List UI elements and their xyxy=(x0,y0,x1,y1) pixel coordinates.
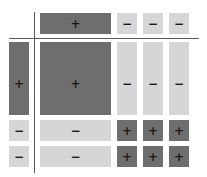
plus-sign: + xyxy=(70,18,80,30)
minus-sign: − xyxy=(14,125,24,137)
minus-sign: − xyxy=(174,78,184,90)
minus-sign: − xyxy=(174,18,184,30)
minus-sign: − xyxy=(122,18,132,30)
matrix-cell-r1-c4: − xyxy=(169,42,189,115)
minus-sign: − xyxy=(70,125,80,137)
vertical-divider xyxy=(34,12,35,173)
minus-sign: − xyxy=(148,18,158,30)
plus-sign: + xyxy=(174,151,184,163)
plus-sign: + xyxy=(70,78,80,90)
plus-sign: + xyxy=(174,125,184,137)
left-header-block-1: + xyxy=(9,42,29,115)
matrix-cell-r1-c2: − xyxy=(117,42,137,115)
plus-sign: + xyxy=(122,151,132,163)
matrix-cell-r3-c3: + xyxy=(143,146,163,167)
plus-sign: + xyxy=(148,125,158,137)
top-header-block-4: − xyxy=(169,13,189,34)
matrix-cell-r1-c1: + xyxy=(40,42,111,115)
matrix-cell-r3-c2: + xyxy=(117,146,137,167)
matrix-cell-r3-c1: − xyxy=(40,146,111,167)
matrix-cell-r1-c3: − xyxy=(143,42,163,115)
left-header-block-3: − xyxy=(9,146,29,167)
left-header-block-2: − xyxy=(9,120,29,141)
plus-sign: + xyxy=(148,151,158,163)
minus-sign: − xyxy=(148,78,158,90)
top-header-block-3: − xyxy=(143,13,163,34)
minus-sign: − xyxy=(14,151,24,163)
horizontal-divider xyxy=(9,38,199,39)
matrix-cell-r2-c3: + xyxy=(143,120,163,141)
top-header-block-1: + xyxy=(40,13,111,34)
matrix-cell-r2-c4: + xyxy=(169,120,189,141)
matrix-cell-r2-c2: + xyxy=(117,120,137,141)
plus-sign: + xyxy=(14,78,24,90)
matrix-cell-r3-c4: + xyxy=(169,146,189,167)
plus-sign: + xyxy=(122,125,132,137)
minus-sign: − xyxy=(122,78,132,90)
top-header-block-2: − xyxy=(117,13,137,34)
minus-sign: − xyxy=(70,151,80,163)
matrix-cell-r2-c1: − xyxy=(40,120,111,141)
